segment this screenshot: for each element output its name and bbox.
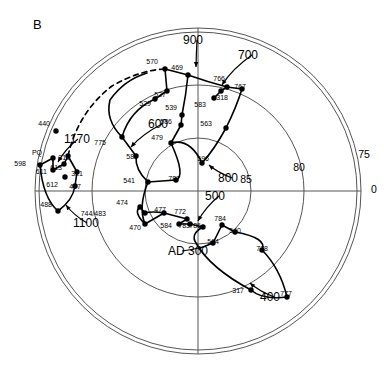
era-label-1100: 1100 — [73, 216, 99, 230]
pole-label-539: 539 — [165, 104, 177, 111]
pole-label-612: 612 — [46, 181, 58, 188]
pole-point-586 — [178, 122, 183, 127]
pole-label-407: 407 — [69, 183, 81, 190]
pole-point-539 — [179, 112, 184, 117]
pole-label-470: 470 — [129, 224, 141, 231]
pole-label-541: 541 — [123, 177, 135, 184]
pole-label-598: 598 — [14, 160, 26, 167]
pole-label-611: 611 — [36, 168, 47, 175]
pole-label-317: 317 — [232, 287, 244, 294]
pole-point-613 — [61, 161, 66, 166]
era-label-600: 600 — [148, 117, 168, 131]
leader-arrow-800 — [209, 165, 214, 170]
pole-label-767: 767 — [234, 83, 246, 90]
pole-label-775: 775 — [94, 139, 106, 146]
pole-point-612 — [62, 174, 67, 179]
axis-ring-label-85: 85 — [240, 173, 252, 185]
pole-point-784 — [219, 222, 224, 227]
pole-point-479 — [168, 140, 173, 145]
pole-label-527: 527 — [154, 91, 166, 98]
pole-label-787: 787 — [168, 175, 180, 182]
era-label-900: 900 — [183, 33, 203, 47]
pole-label-584: 584 — [160, 222, 172, 229]
pole-label-PQ: PQ — [32, 149, 43, 157]
pole-point-563 — [223, 125, 228, 130]
pole-label-585: 585 — [126, 153, 138, 160]
era-label-AD-300: AD 300 — [168, 244, 208, 258]
pole-label-786: 786 — [189, 222, 201, 229]
pole-label-583: 583 — [194, 101, 206, 108]
pole-label-479: 479 — [151, 134, 163, 141]
pole-label-564: 564 — [207, 238, 219, 245]
pole-label-778: 778 — [256, 245, 268, 252]
pole-point-598 — [37, 162, 42, 167]
pole-label-540: 540 — [229, 227, 241, 234]
pole-label-488: 488 — [40, 201, 52, 208]
era-label-500: 500 — [205, 189, 225, 203]
pole-label-613: 613 — [50, 164, 62, 171]
pole-label-321: 321 — [71, 170, 83, 177]
pole-label-440: 440 — [38, 120, 50, 127]
axis-ring-label-80: 80 — [293, 161, 305, 173]
axis-ring-label-75: 75 — [358, 148, 370, 160]
axis-origin-label: 0 — [371, 183, 377, 195]
era-label-1170: 1170 — [64, 132, 90, 146]
pole-label-529: 529 — [139, 100, 151, 107]
figure-root: 5704697667673185835275295395865634797755… — [0, 0, 389, 372]
pole-label-474: 474 — [116, 199, 128, 206]
pole-label-318: 318 — [216, 94, 228, 101]
pole-label-570: 570 — [146, 58, 158, 65]
pole-point-541 — [145, 179, 150, 184]
era-label-400: 400 — [260, 290, 280, 304]
pole-point-474 — [137, 204, 142, 209]
pole-point-766 — [224, 84, 229, 89]
pole-label-784: 784 — [214, 215, 226, 222]
pole-label-772: 772 — [174, 208, 186, 215]
polar-plot-svg: 5704697667673185835275295395865634797755… — [0, 0, 389, 372]
pole-label-469: 469 — [171, 64, 183, 71]
pole-point-775 — [119, 134, 124, 139]
pole-label-563: 563 — [200, 120, 212, 127]
pole-point-744-483 — [142, 210, 147, 215]
pole-point-469 — [185, 72, 190, 77]
pole-label-477: 477 — [154, 206, 166, 213]
pole-point-570 — [162, 66, 167, 71]
pole-point-470 — [142, 221, 147, 226]
grid-layer — [35, 28, 361, 354]
pole-point-PQ — [50, 155, 55, 160]
pole-label-596: 596 — [197, 155, 209, 162]
era-label-800: 800 — [218, 171, 238, 185]
pole-point-440 — [53, 128, 58, 133]
pole-point-317 — [248, 287, 253, 292]
panel-label: B — [33, 17, 42, 32]
pole-point-488 — [55, 208, 60, 213]
era-label-700: 700 — [238, 48, 258, 62]
pole-point-318 — [218, 88, 223, 93]
pole-point-786 — [200, 224, 205, 229]
pole-point-772 — [184, 216, 189, 221]
pole-label-777: 777 — [280, 290, 292, 297]
